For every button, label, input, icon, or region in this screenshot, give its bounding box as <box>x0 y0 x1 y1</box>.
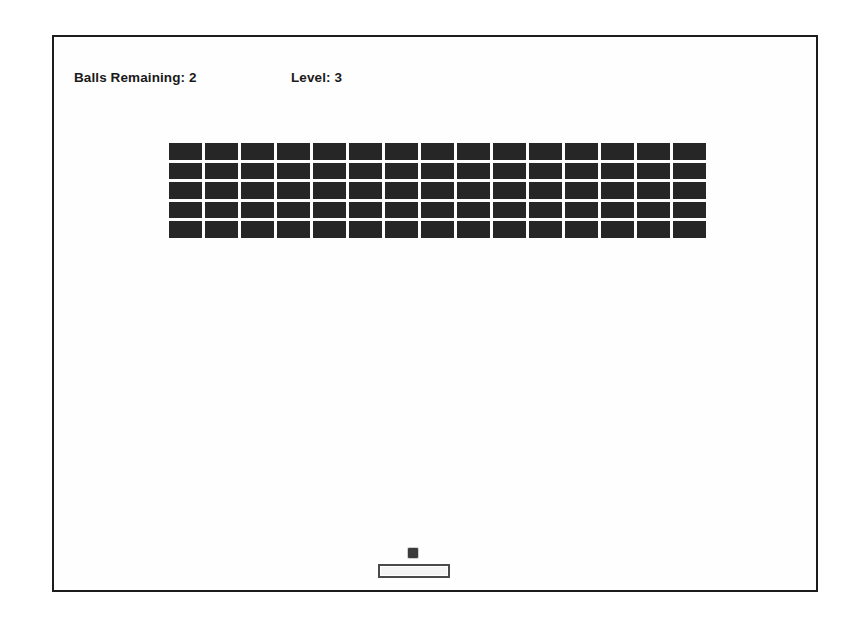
hud-bar: Balls Remaining: 2 Level: 3 <box>54 37 816 97</box>
brick <box>529 182 562 199</box>
brick-row <box>169 142 709 162</box>
brick <box>637 221 670 238</box>
brick <box>385 143 418 160</box>
brick <box>169 202 202 219</box>
brick <box>529 163 562 180</box>
brick <box>385 221 418 238</box>
brick <box>565 163 598 180</box>
brick <box>493 221 526 238</box>
brick <box>169 221 202 238</box>
brick <box>277 182 310 199</box>
brick <box>673 182 706 199</box>
brick <box>349 163 382 180</box>
brick <box>457 202 490 219</box>
brick-row <box>169 201 709 221</box>
brick <box>313 182 346 199</box>
brick <box>205 202 238 219</box>
brick <box>277 163 310 180</box>
brick <box>601 202 634 219</box>
balls-remaining-label: Balls Remaining: 2 <box>74 70 197 86</box>
brick <box>637 163 670 180</box>
brick <box>313 163 346 180</box>
brick <box>493 143 526 160</box>
brick <box>673 221 706 238</box>
brick <box>241 202 274 219</box>
brick <box>673 143 706 160</box>
brick <box>349 143 382 160</box>
brick <box>421 143 454 160</box>
brick <box>385 163 418 180</box>
brick <box>601 163 634 180</box>
brick <box>565 143 598 160</box>
brick <box>169 182 202 199</box>
brick <box>205 221 238 238</box>
brick <box>349 221 382 238</box>
brick <box>529 221 562 238</box>
brick <box>421 163 454 180</box>
level-label: Level: 3 <box>291 70 342 86</box>
brick <box>349 182 382 199</box>
brick <box>241 163 274 180</box>
brick <box>493 163 526 180</box>
brick <box>169 143 202 160</box>
brick <box>277 221 310 238</box>
brick <box>565 221 598 238</box>
brick <box>241 182 274 199</box>
brick-row <box>169 181 709 201</box>
game-screen: Balls Remaining: 2 Level: 3 <box>0 0 856 619</box>
game-playfield[interactable]: Balls Remaining: 2 Level: 3 <box>52 35 818 592</box>
brick <box>241 143 274 160</box>
brick <box>313 143 346 160</box>
brick <box>313 221 346 238</box>
brick <box>673 163 706 180</box>
brick <box>385 182 418 199</box>
brick <box>457 182 490 199</box>
brick <box>169 163 202 180</box>
brick <box>421 202 454 219</box>
brick <box>205 143 238 160</box>
brick <box>601 182 634 199</box>
brick <box>313 202 346 219</box>
brick <box>637 202 670 219</box>
brick <box>277 202 310 219</box>
paddle[interactable] <box>378 564 450 578</box>
brick <box>349 202 382 219</box>
brick <box>457 163 490 180</box>
brick <box>637 182 670 199</box>
brick <box>601 221 634 238</box>
brick <box>205 182 238 199</box>
brick-row <box>169 220 709 240</box>
brick <box>457 143 490 160</box>
brick <box>421 182 454 199</box>
brick <box>421 221 454 238</box>
brick <box>385 202 418 219</box>
brick <box>205 163 238 180</box>
brick <box>241 221 274 238</box>
brick <box>601 143 634 160</box>
brick <box>673 202 706 219</box>
brick <box>637 143 670 160</box>
brick <box>565 182 598 199</box>
brick <box>277 143 310 160</box>
brick <box>529 202 562 219</box>
brick <box>493 182 526 199</box>
brick <box>565 202 598 219</box>
brick <box>493 202 526 219</box>
brick <box>457 221 490 238</box>
brick-grid <box>169 142 709 240</box>
brick <box>529 143 562 160</box>
ball <box>408 548 418 558</box>
brick-row <box>169 162 709 182</box>
